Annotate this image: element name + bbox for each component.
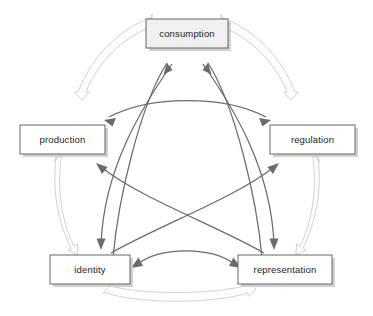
inner-arrow-representation-production	[96, 163, 264, 253]
inner-arrow-consumption-representation	[203, 64, 279, 250]
outer-arrow-production-consumption	[75, 14, 153, 100]
outer-arrow-regulation-representation	[296, 148, 320, 255]
node-representation[interactable]: representation	[238, 255, 335, 287]
inner-arrow-identity-regulation	[111, 163, 279, 253]
node-consumption-label: consumption	[159, 28, 215, 39]
outer-arrow-consumption-regulation	[221, 14, 299, 100]
diagram-canvas: consumption production regulation identi…	[0, 0, 373, 316]
node-consumption[interactable]: consumption	[146, 19, 231, 51]
node-identity-label: identity	[74, 264, 105, 275]
node-regulation-label: regulation	[291, 134, 334, 145]
inner-arrow-identity-consumption	[113, 63, 173, 258]
node-regulation[interactable]: regulation	[270, 125, 358, 157]
inner-arrow-group	[96, 63, 279, 268]
circuit-of-culture-diagram: consumption production regulation identi…	[0, 0, 373, 316]
inner-arrow-representation-consumption	[203, 63, 263, 258]
outer-arrow-identity-production	[54, 148, 78, 255]
inner-arrow-identity-representation	[131, 251, 241, 268]
inner-arrow-production-regulation	[104, 101, 271, 127]
node-production[interactable]: production	[20, 125, 108, 157]
node-identity[interactable]: identity	[50, 255, 133, 287]
node-representation-label: representation	[254, 264, 317, 275]
node-production-label: production	[40, 134, 86, 145]
